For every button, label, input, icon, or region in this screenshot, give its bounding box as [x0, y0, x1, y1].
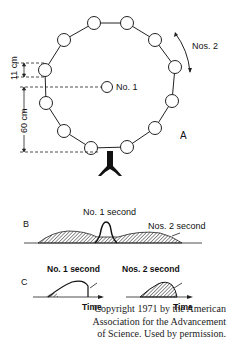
feeder-stalk-icon — [98, 151, 122, 176]
copyright-line-2: Association for the Advancement — [62, 316, 226, 329]
copyright-line-1: Copyright 1971 by the American — [62, 303, 226, 316]
panel-b-letter: B — [23, 219, 29, 229]
center-label: No. 1 — [116, 82, 138, 92]
panel-b-center-label: No. 1 second — [83, 207, 136, 217]
dimension-11cm: 11 cm — [9, 56, 19, 80]
copyright-line-3: of Science. Used by permission. — [62, 328, 226, 341]
ring-apparatus: 11 cm 60 cm No. 1 Nos. 2 A — [9, 17, 218, 177]
panel-b: B No. 1 second Nos. 2 second — [23, 207, 206, 243]
rotation-label: Nos. 2 — [192, 41, 218, 51]
panel-c-left-label: No. 1 second — [47, 264, 100, 274]
panel-b-right-label: Nos. 2 second — [148, 221, 206, 231]
copyright-notice: Copyright 1971 by the American Associati… — [62, 303, 226, 341]
dimension-60cm: 60 cm — [19, 108, 29, 133]
panel-c-letter: C — [21, 277, 28, 287]
panel-c-right-label: Nos. 2 second — [122, 264, 180, 274]
center-circle — [102, 82, 113, 93]
panel-a-letter: A — [180, 130, 187, 141]
